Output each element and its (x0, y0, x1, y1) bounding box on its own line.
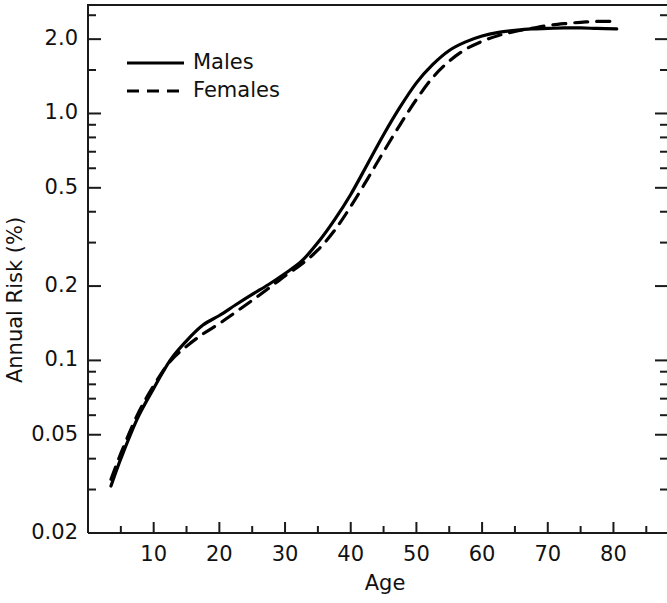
data-series (111, 21, 617, 486)
legend-label-males: Males (193, 50, 254, 74)
y-axis-tick-labels: 0.020.050.10.20.51.02.0 (31, 26, 78, 544)
x-tick-label: 60 (469, 542, 496, 566)
annual-risk-by-age-line-chart: 1020304050607080 0.020.050.10.20.51.02.0… (0, 0, 667, 603)
y-axis-title: Annual Risk (%) (3, 217, 27, 383)
x-axis-title: Age (365, 571, 406, 595)
y-tick-label: 0.5 (45, 175, 78, 199)
x-axis-ticks (121, 522, 646, 533)
x-tick-label: 50 (403, 542, 430, 566)
series-line-males (111, 28, 617, 486)
y-axis-ticks (88, 15, 101, 533)
y-tick-label: 0.2 (45, 273, 78, 297)
x-tick-label: 20 (206, 542, 233, 566)
y-tick-label: 1.0 (45, 100, 78, 124)
y-tick-label: 0.02 (31, 520, 78, 544)
y-tick-label: 2.0 (45, 26, 78, 50)
legend-label-females: Females (193, 78, 280, 102)
x-tick-label: 70 (534, 542, 561, 566)
x-tick-label: 30 (272, 542, 299, 566)
y-tick-label: 0.1 (45, 347, 78, 371)
x-tick-label: 80 (600, 542, 627, 566)
plot-frame (88, 5, 667, 533)
chart-legend: MalesFemales (127, 50, 280, 102)
chart-figure: 1020304050607080 0.020.050.10.20.51.02.0… (0, 0, 667, 603)
x-tick-label: 40 (337, 542, 364, 566)
x-axis-tick-labels: 1020304050607080 (140, 542, 627, 566)
series-line-females (111, 21, 617, 479)
x-tick-label: 10 (140, 542, 167, 566)
right-axis-ticks (655, 15, 667, 533)
y-tick-label: 0.05 (31, 422, 78, 446)
